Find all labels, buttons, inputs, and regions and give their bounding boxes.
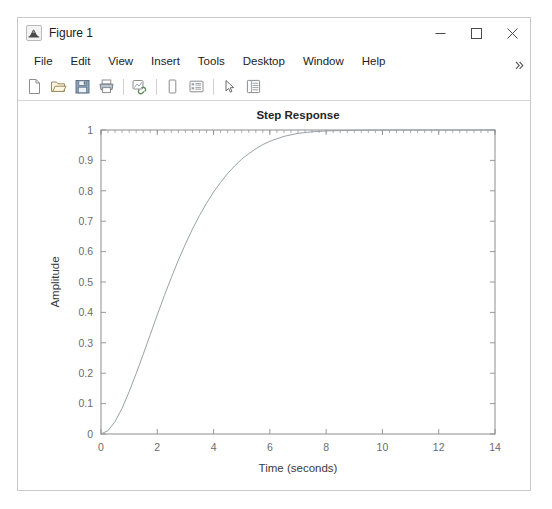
menu-item-view[interactable]: View xyxy=(99,52,142,70)
property-inspector-icon[interactable] xyxy=(243,76,264,97)
insert-legend-icon[interactable] xyxy=(186,76,207,97)
insert-colorbar-icon[interactable] xyxy=(162,76,183,97)
new-figure-icon[interactable] xyxy=(24,76,45,97)
x-tick-label: 6 xyxy=(267,441,273,453)
y-tick-label: 1 xyxy=(87,124,93,136)
menu-item-tools[interactable]: Tools xyxy=(189,52,234,70)
link-plot-icon[interactable] xyxy=(129,76,150,97)
chevron-expand-icon[interactable] xyxy=(515,56,524,65)
x-tick-label: 2 xyxy=(154,441,160,453)
menu-item-help[interactable]: Help xyxy=(353,52,395,70)
maximize-icon[interactable] xyxy=(458,18,494,48)
x-tick-label: 0 xyxy=(98,441,104,453)
x-tick-label: 4 xyxy=(211,441,217,453)
y-tick-label: 0.5 xyxy=(78,276,93,288)
window-controls xyxy=(422,18,530,48)
y-tick-label: 0.6 xyxy=(78,245,93,257)
series-step-response xyxy=(101,130,495,434)
x-tick-label: 10 xyxy=(377,441,389,453)
y-tick-label: 0 xyxy=(87,428,93,440)
y-tick-label: 0.2 xyxy=(78,367,93,379)
y-tick-label: 0.3 xyxy=(78,337,93,349)
print-figure-icon[interactable] xyxy=(96,76,117,97)
menu-item-file[interactable]: File xyxy=(25,52,62,70)
x-tick-label: 8 xyxy=(323,441,329,453)
step-response-plot: Step Response0246810121400.10.20.30.40.5… xyxy=(18,101,530,490)
menu-bar: File Edit View Insert Tools Desktop Wind… xyxy=(18,48,530,73)
chart-title: Step Response xyxy=(256,109,339,121)
menu-item-insert[interactable]: Insert xyxy=(142,52,189,70)
menu-item-window[interactable]: Window xyxy=(294,52,353,70)
y-tick-label: 0.1 xyxy=(78,397,93,409)
y-axis-label: Amplitude xyxy=(49,256,61,307)
y-tick-label: 0.8 xyxy=(78,185,93,197)
close-icon[interactable] xyxy=(494,18,530,48)
figure-window: Figure 1 File Edit View Insert Tools Des… xyxy=(17,17,531,491)
menu-item-edit[interactable]: Edit xyxy=(62,52,100,70)
window-title: Figure 1 xyxy=(49,26,93,40)
x-axis-label: Time (seconds) xyxy=(259,462,338,474)
save-figure-icon[interactable] xyxy=(72,76,93,97)
open-file-icon[interactable] xyxy=(48,76,69,97)
x-tick-label: 14 xyxy=(489,441,501,453)
menu-item-desktop[interactable]: Desktop xyxy=(234,52,294,70)
figure-toolbar xyxy=(18,73,530,101)
x-tick-label: 12 xyxy=(433,441,445,453)
title-bar: Figure 1 xyxy=(18,18,530,48)
matlab-membrane-icon xyxy=(26,25,42,41)
toolbar-separator xyxy=(213,79,214,95)
y-tick-label: 0.9 xyxy=(78,154,93,166)
y-tick-label: 0.4 xyxy=(78,306,93,318)
y-tick-label: 0.7 xyxy=(78,215,93,227)
toolbar-separator xyxy=(156,79,157,95)
minimize-icon[interactable] xyxy=(422,18,458,48)
pointer-arrow-icon[interactable] xyxy=(219,76,240,97)
toolbar-separator xyxy=(123,79,124,95)
figure-canvas[interactable]: Step Response0246810121400.10.20.30.40.5… xyxy=(18,101,530,490)
plot-box xyxy=(101,130,495,434)
